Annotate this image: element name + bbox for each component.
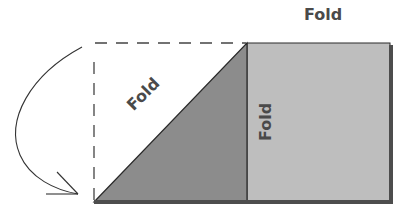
fold-label-diagonal: Fold (123, 74, 163, 114)
fold-label-vertical: Fold (256, 103, 275, 141)
folded-triangle (94, 43, 247, 202)
fold-label-top: Fold (304, 5, 342, 24)
fold-diagram: Fold Fold Fold (0, 0, 395, 210)
curved-fold-arrow-icon (16, 47, 82, 194)
bottom-edge (94, 200, 393, 204)
